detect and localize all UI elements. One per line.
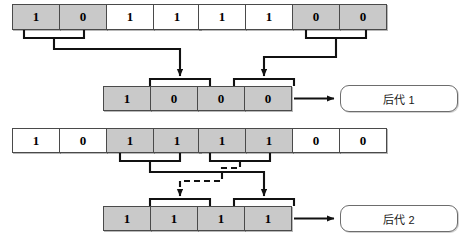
bracket-offspring1-left <box>150 79 210 86</box>
bracket-parent4 <box>210 153 270 161</box>
bracket-parent1 <box>24 30 84 38</box>
crossover-diagram: 1011 1100 1000 1011 1100 1111 后代 1 后代 2 <box>0 0 466 243</box>
wire-parent1-to-offspring1 <box>54 38 180 76</box>
connector-overlay <box>0 0 466 243</box>
wire-parent2-to-offspring1 <box>264 38 336 76</box>
wire-parent3-to-offspring2 <box>150 161 264 196</box>
bracket-offspring2-right <box>234 199 294 206</box>
bracket-parent2 <box>306 30 366 38</box>
bracket-parent3 <box>120 153 180 161</box>
bracket-offspring1-right <box>234 79 294 86</box>
wire-parent4-to-offspring2 <box>180 161 240 196</box>
bracket-offspring2-left <box>150 199 210 206</box>
